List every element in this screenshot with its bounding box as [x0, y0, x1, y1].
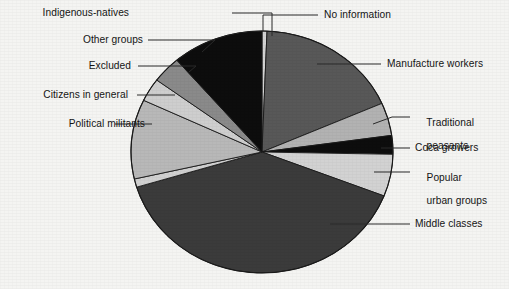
label-no-information: No information — [324, 9, 391, 21]
label-indigenous-natives: Indigenous-natives — [43, 7, 129, 19]
label-political-militants: Political militants — [69, 118, 145, 130]
label-coca-growers: Coca growers — [415, 142, 478, 154]
label-popular-urban-groups-line2: urban groups — [427, 195, 488, 206]
label-popular-urban-groups-line1: Popular — [427, 172, 462, 183]
label-other-groups: Other groups — [83, 34, 143, 46]
pie-slices-group — [131, 31, 393, 273]
leader-no-information — [263, 15, 318, 31]
label-middle-classes: Middle classes — [415, 218, 483, 230]
pie-chart-figure: Indigenous-natives Other groups Excluded… — [0, 0, 509, 289]
label-excluded: Excluded — [89, 60, 131, 72]
label-manufacture-workers: Manufacture workers — [387, 58, 483, 70]
label-popular-urban-groups: Popular urban groups — [415, 160, 487, 218]
label-citizens-in-general: Citizens in general — [43, 89, 128, 101]
label-traditional-peasants-line1: Traditional — [426, 117, 474, 128]
label-traditional-peasants: Traditional peasants — [415, 105, 474, 163]
